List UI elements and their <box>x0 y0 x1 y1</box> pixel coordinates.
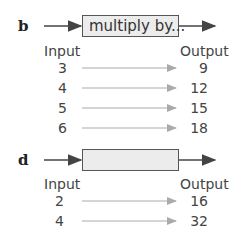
output-value: 18 <box>180 120 208 136</box>
output-header-d: Output <box>180 176 229 192</box>
machine-label-b: b <box>18 17 29 35</box>
output-value: 12 <box>180 80 208 96</box>
input-value: 6 <box>58 120 67 136</box>
machine-label-d: d <box>18 151 29 169</box>
output-header-b: Output <box>180 43 229 59</box>
input-value: 3 <box>58 60 67 76</box>
output-value: 15 <box>180 100 208 116</box>
input-value: 5 <box>58 100 67 116</box>
input-value: 4 <box>58 80 67 96</box>
output-value: 9 <box>180 60 208 76</box>
function-box-b: multiply by... <box>82 15 179 37</box>
input-header-d: Input <box>44 176 80 192</box>
input-value: 2 <box>55 193 64 209</box>
function-box-d <box>82 149 179 171</box>
output-value: 32 <box>180 213 208 228</box>
input-value: 4 <box>55 213 64 228</box>
output-value: 16 <box>180 193 208 209</box>
input-header-b: Input <box>44 43 80 59</box>
